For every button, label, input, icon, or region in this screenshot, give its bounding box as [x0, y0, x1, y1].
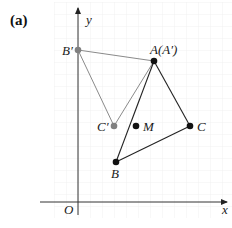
label-a: A(A′)	[149, 42, 177, 57]
origin-label: O	[64, 202, 74, 217]
coordinate-diagram: (a) y x O B′ A(A′) C′ M C B	[0, 0, 232, 228]
point-m	[133, 123, 140, 130]
label-m: M	[142, 119, 155, 134]
x-axis-label: x	[221, 202, 228, 217]
point-c-prime	[111, 123, 118, 130]
panel-label: (a)	[10, 12, 28, 29]
label-c-prime: C′	[97, 119, 109, 134]
point-b	[113, 159, 120, 166]
y-axis-label: y	[84, 12, 92, 27]
label-b-prime: B′	[62, 43, 73, 58]
label-b: B	[111, 166, 119, 181]
point-b-prime	[75, 47, 82, 54]
grid-background	[54, 2, 232, 218]
diagram-canvas: (a) y x O B′ A(A′) C′ M C B	[0, 0, 232, 228]
point-a	[151, 58, 158, 65]
label-c: C	[197, 119, 206, 134]
point-c	[187, 123, 194, 130]
